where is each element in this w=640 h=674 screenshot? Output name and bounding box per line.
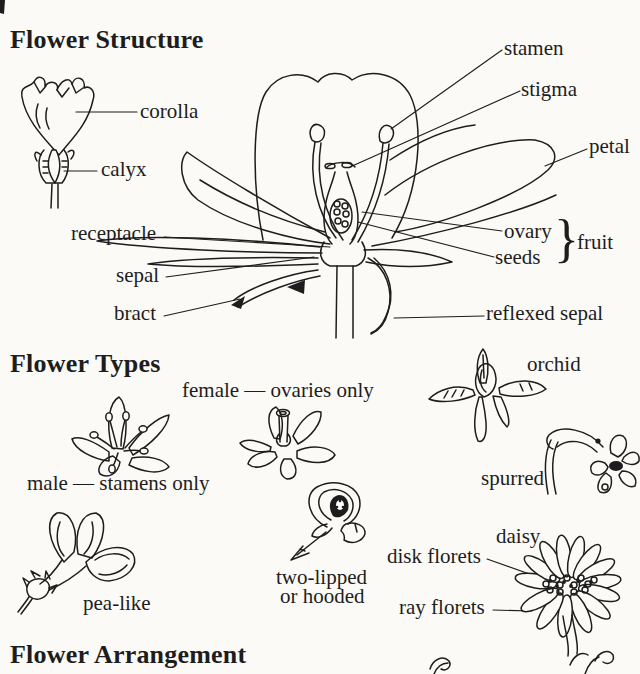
scan-artifact (0, 0, 5, 14)
label-stigma: stigma (521, 78, 577, 100)
label-daisy: daisy (496, 525, 540, 547)
section-title-flower-structure: Flower Structure (10, 27, 204, 53)
label-ray-florets: ray florets (399, 596, 485, 618)
label-seeds: seeds (495, 246, 541, 268)
two-lipped-flower-drawing (291, 483, 365, 560)
cutoff-sketch-left (430, 658, 450, 674)
daisy-drawing (514, 534, 622, 656)
label-stamen: stamen (504, 37, 563, 59)
label-spurred: spurred (481, 467, 544, 489)
section-title-flower-arrangement: Flower Arrangement (10, 642, 246, 668)
male-flower-drawing (72, 397, 169, 476)
label-female: female — ovaries only (182, 379, 374, 401)
label-two-lipped-line2: or hooded (280, 585, 365, 607)
label-petal: petal (589, 135, 630, 157)
label-receptacle: receptacle (71, 222, 156, 244)
label-fruit: fruit (577, 231, 613, 253)
fruit-brace: } (554, 213, 579, 265)
label-pea-like: pea-like (83, 592, 151, 614)
label-reflexed-sepal: reflexed sepal (486, 302, 603, 324)
label-ovary: ovary (504, 220, 552, 242)
label-bract: bract (114, 302, 156, 324)
label-sepal: sepal (116, 264, 159, 286)
label-disk-florets: disk florets (387, 545, 481, 567)
cutoff-sketch-right (570, 652, 613, 674)
label-orchid: orchid (527, 353, 581, 375)
section-title-flower-types: Flower Types (10, 351, 160, 377)
spurred-flower-drawing (546, 429, 639, 494)
bell-flower-drawing (22, 77, 94, 208)
label-corolla: corolla (140, 100, 198, 122)
label-male: male — stamens only (27, 472, 210, 494)
label-calyx: calyx (101, 158, 146, 180)
scanned-diagram-page: Flower Structure Flower Types Flower Arr… (0, 0, 640, 674)
female-flower-drawing (240, 407, 335, 479)
